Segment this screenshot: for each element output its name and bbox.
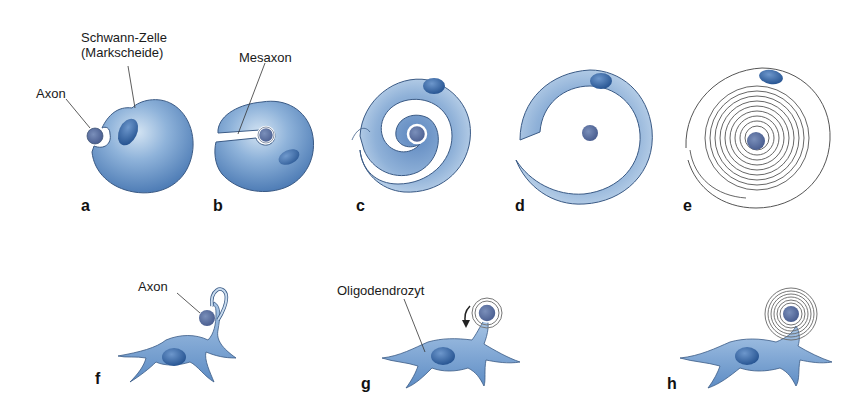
panel-label-c: c bbox=[356, 197, 365, 215]
panel-g-oligodendrocyte bbox=[382, 298, 520, 388]
annotation-mesaxon: Mesaxon bbox=[239, 50, 292, 65]
panel-label-b: b bbox=[213, 197, 223, 215]
annotation-schwann-cell: Schwann-Zelle (Markscheide) bbox=[81, 30, 167, 60]
panel-e-compact-myelin bbox=[686, 68, 830, 208]
panel-c-spiral bbox=[352, 78, 470, 192]
panel-b-schwann-cell bbox=[215, 63, 314, 192]
panel-a-schwann-cell bbox=[66, 66, 193, 193]
panel-f-oligodendrocyte bbox=[118, 289, 236, 382]
annotation-axon-bottom: Axon bbox=[138, 279, 168, 294]
annotation-axon-top: Axon bbox=[36, 86, 66, 101]
panel-label-d: d bbox=[515, 197, 525, 215]
panel-d-spiral bbox=[516, 70, 652, 204]
annotation-oligodendrocyte: Oligodendrozyt bbox=[337, 283, 424, 298]
panel-label-e: e bbox=[683, 197, 692, 215]
panel-label-h: h bbox=[667, 375, 677, 393]
myelination-figure bbox=[0, 0, 863, 412]
annotation-schwann-line1: Schwann-Zelle bbox=[81, 30, 167, 45]
panel-label-a: a bbox=[81, 197, 90, 215]
panel-label-f: f bbox=[95, 370, 100, 388]
panel-label-g: g bbox=[361, 375, 371, 393]
panel-h-oligodendrocyte bbox=[680, 288, 832, 388]
annotation-schwann-line2: (Markscheide) bbox=[81, 45, 167, 60]
